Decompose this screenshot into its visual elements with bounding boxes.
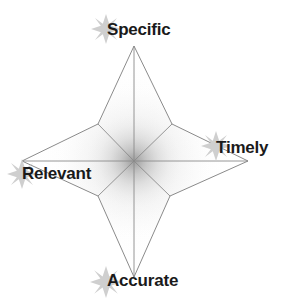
star-point-label-timely: Timely: [216, 138, 268, 157]
star-point-label-relevant: Relevant: [22, 164, 91, 183]
star-diagram: Specific Timely Accurate Relevant: [0, 0, 284, 306]
star-point-label-accurate: Accurate: [107, 271, 178, 290]
star-point-label-specific: Specific: [107, 20, 171, 39]
